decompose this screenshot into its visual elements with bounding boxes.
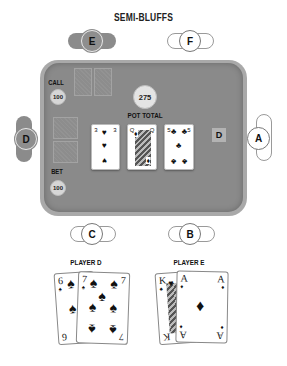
bet-label: BET (49, 168, 65, 175)
seat-a[interactable]: A (247, 127, 270, 150)
call-chip: 100 (50, 89, 66, 105)
diamond-icon: ♦ (146, 157, 150, 164)
player-d-card-2: 7 ♠ 7 ♠ ♠ ♠ ♠ ♠ ♠ ♠ 7 (76, 271, 130, 345)
seat-f[interactable]: F (179, 30, 201, 52)
card-rank: 7 (121, 276, 126, 286)
call-label: CALL (47, 79, 65, 86)
pot-chip: 275 (133, 85, 157, 109)
spade-icon: ♠ (89, 300, 97, 314)
spade-icon: ♠ (110, 276, 118, 290)
seat-b[interactable]: B (179, 223, 201, 245)
card-back (94, 68, 112, 96)
heart-icon: ♥ (168, 279, 174, 288)
player-d-label: PLAYER D (68, 259, 104, 266)
card-back (53, 117, 78, 139)
board-card-3: 5 5 ♣ ♣ ♣ ♣ ♣ (164, 124, 194, 170)
spade-icon: ♠ (98, 289, 106, 303)
card-rank: 6 (62, 332, 68, 342)
seat-e-label: E (89, 36, 96, 47)
card-rank: 3 (112, 127, 118, 133)
card-rank: 3 (93, 127, 99, 133)
heart-icon: ♥ (102, 156, 107, 164)
seat-d[interactable]: D (15, 128, 37, 150)
seat-c[interactable]: C (81, 223, 103, 245)
player-e-card-2: A ♦ A ♦ ♦ ♦ A ♦ A (175, 271, 228, 344)
seat-c-label: C (88, 229, 95, 240)
diamond-icon: ♦ (180, 284, 183, 290)
spade-icon: ♠ (109, 323, 117, 337)
diamond-icon: ♦ (196, 298, 204, 314)
club-icon: ♣ (176, 142, 181, 150)
pot-total-label: POT TOTAL (123, 112, 168, 119)
spade-icon: ♠ (88, 323, 96, 337)
club-icon: ♣ (182, 157, 187, 165)
card-rank: A (180, 274, 187, 284)
spade-icon: ♠ (58, 286, 62, 292)
card-rank: 7 (119, 332, 124, 342)
player-e-label: PLAYER E (171, 259, 207, 266)
board-card-1: 3 3 ♥ ♥ ♥ (91, 124, 120, 170)
spade-icon: ♠ (67, 276, 75, 290)
diagram-title: SEMI-BLUFFS (22, 12, 266, 23)
seat-e[interactable]: E (81, 30, 103, 52)
seat-f-label: F (187, 36, 193, 47)
seat-a-label: A (255, 133, 262, 144)
spade-icon: ♠ (82, 284, 85, 290)
dealer-button: D (212, 128, 226, 142)
card-back (74, 68, 92, 96)
seat-b-label: B (186, 229, 193, 240)
diamond-icon: ♦ (134, 130, 138, 137)
bet-chip: 100 (50, 180, 66, 196)
card-rank: 7 (82, 274, 87, 284)
club-icon: ♣ (182, 128, 187, 136)
card-rank: A (216, 330, 223, 340)
seat-d-label: D (22, 134, 29, 145)
card-rank: K (163, 331, 171, 341)
heart-icon: ♥ (102, 129, 107, 137)
board-card-2: Q Q ♦ ♦ (127, 124, 157, 170)
spade-icon: ♠ (159, 286, 163, 292)
card-rank: 6 (58, 276, 64, 286)
card-rank: A (179, 330, 186, 340)
club-icon: ♣ (171, 157, 176, 165)
card-back (53, 141, 78, 163)
spade-icon: ♠ (69, 301, 77, 315)
spade-icon: ♠ (109, 300, 117, 314)
card-rank: A (217, 274, 224, 284)
club-icon: ♣ (171, 128, 176, 136)
heart-icon: ♥ (102, 142, 107, 150)
diamond-icon: ♦ (221, 284, 224, 290)
spade-icon: ♠ (90, 276, 98, 290)
